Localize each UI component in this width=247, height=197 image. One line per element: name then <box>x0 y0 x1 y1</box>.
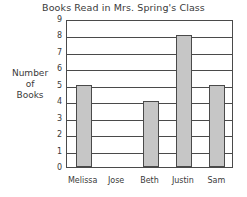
bar <box>209 85 225 167</box>
bar <box>143 101 159 167</box>
y-tick-label: 9 <box>48 15 62 24</box>
chart-title: Books Read in Mrs. Spring's Class <box>0 2 247 13</box>
x-tick-label: Sam <box>186 176 246 185</box>
y-tick-label: 6 <box>48 64 62 73</box>
y-tick-label: 8 <box>48 31 62 40</box>
bar <box>176 35 192 167</box>
gridline <box>67 37 232 38</box>
y-tick-label: 5 <box>48 81 62 90</box>
y-tick-label: 2 <box>48 130 62 139</box>
bar <box>76 85 92 167</box>
y-tick-label: 7 <box>48 48 62 57</box>
gridline <box>67 70 232 71</box>
y-tick-label: 3 <box>48 114 62 123</box>
y-tick-label: 1 <box>48 147 62 156</box>
y-tick-label: 4 <box>48 97 62 106</box>
gridline <box>67 54 232 55</box>
gridline <box>67 87 232 88</box>
bar-chart: Books Read in Mrs. Spring's Class Number… <box>0 0 247 197</box>
plot-area <box>66 20 233 168</box>
y-tick-label: 0 <box>48 163 62 172</box>
